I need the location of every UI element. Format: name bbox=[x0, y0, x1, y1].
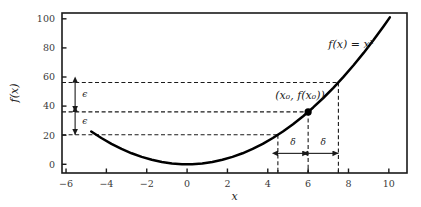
x-tick-label: −4 bbox=[99, 178, 113, 189]
x-axis-tick-labels: −6−4−20246810 bbox=[59, 178, 395, 189]
delta-right-label: δ bbox=[321, 137, 326, 147]
delta-left-label: δ bbox=[290, 137, 295, 147]
x-tick-label: 4 bbox=[265, 178, 271, 189]
point-label: (x₀, f(x₀)) bbox=[275, 89, 324, 102]
x-tick-label: 8 bbox=[345, 178, 351, 189]
y-axis-title: f(x) bbox=[8, 84, 21, 104]
epsilon-delta-limit-plot: −6−4−20246810 020406080100 f(x) = x² (x₀… bbox=[0, 0, 421, 207]
y-tick-label: 20 bbox=[43, 130, 55, 141]
figure-container: −6−4−20246810 020406080100 f(x) = x² (x₀… bbox=[0, 0, 421, 207]
epsilon-lower-label: ϵ bbox=[82, 116, 87, 126]
function-label: f(x) = x² bbox=[327, 38, 374, 51]
x-tick-label: 10 bbox=[383, 178, 395, 189]
x-axis-title: x bbox=[231, 190, 238, 203]
y-tick-label: 100 bbox=[37, 13, 55, 24]
y-tick-label: 80 bbox=[43, 42, 55, 53]
x-tick-label: −6 bbox=[59, 178, 73, 189]
y-tick-label: 0 bbox=[49, 159, 55, 170]
x-tick-label: 0 bbox=[184, 178, 190, 189]
y-tick-label: 60 bbox=[43, 71, 55, 82]
y-tick-label: 40 bbox=[43, 100, 55, 111]
x-tick-label: −2 bbox=[140, 178, 154, 189]
x-tick-label: 6 bbox=[305, 178, 311, 189]
x-tick-label: 2 bbox=[224, 178, 230, 189]
plot-background bbox=[0, 0, 421, 207]
marked-point-marker bbox=[305, 108, 312, 115]
epsilon-upper-label: ϵ bbox=[82, 89, 87, 99]
